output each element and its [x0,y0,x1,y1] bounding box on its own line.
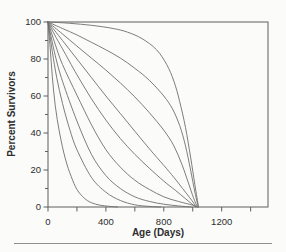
chart-canvas: 04008001200020406080100 Age (Days) Perce… [0,0,286,252]
y-tick-label-80: 80 [30,53,41,64]
y-tick-label-0: 0 [36,201,41,212]
x-tick-label-800: 800 [156,216,172,227]
y-tick-label-40: 40 [30,127,41,138]
x-axis-title: Age (Days) [132,227,184,238]
y-tick-label-20: 20 [30,164,41,175]
x-tick-label-1200: 1200 [211,216,232,227]
y-axis-title: Percent Survivors [6,71,17,157]
x-tick-label-0: 0 [45,216,50,227]
y-tick-label-100: 100 [25,16,41,27]
x-tick-label-400: 400 [98,216,114,227]
y-tick-label-60: 60 [30,90,41,101]
figure-background [0,0,286,252]
survivorship-chart-figure: 04008001200020406080100 Age (Days) Perce… [0,0,286,252]
